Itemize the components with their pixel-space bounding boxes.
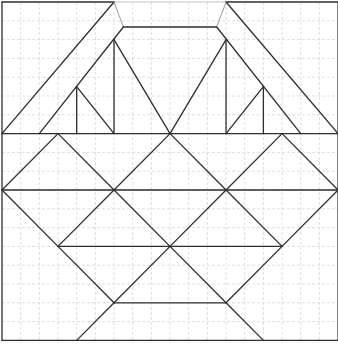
diagram-canvas [0, 0, 338, 353]
background [0, 0, 338, 353]
